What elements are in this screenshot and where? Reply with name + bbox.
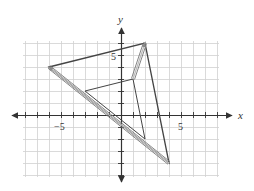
x-tick-neg5-label: −5 [54,121,65,132]
x-axis-label: x [237,109,243,121]
coordinate-plane-figure: x y 5 −5 5 [0,0,254,191]
x-tick-5-label: 5 [178,121,183,132]
y-axis-label: y [117,13,123,25]
y-tick-5-label: 5 [111,51,116,62]
dilation-diagram: x y 5 −5 5 [0,0,254,191]
axes [12,28,232,182]
